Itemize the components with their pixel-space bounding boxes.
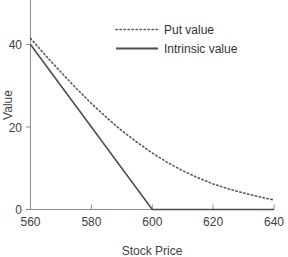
series-line-intrinsic-value (31, 45, 275, 210)
x-axis-title: Stock Price (122, 244, 183, 257)
x-tick-label-560: 560 (20, 215, 40, 229)
chart-plot-area: 40 20 0 560 580 600 620 640 Value Stock … (0, 0, 288, 257)
x-tick-label-640: 640 (264, 215, 284, 229)
y-tick-label-40: 40 (9, 38, 23, 52)
y-tick-label-20: 20 (9, 121, 23, 135)
legend: Put value Intrinsic value (116, 23, 238, 56)
y-axis-title: Value (1, 90, 15, 120)
chart-container: 40 20 0 560 580 600 620 640 Value Stock … (0, 0, 288, 257)
x-tick-label-600: 600 (142, 215, 162, 229)
legend-label-put-value: Put value (164, 23, 214, 37)
x-tick-label-580: 580 (81, 215, 101, 229)
x-tick-label-620: 620 (203, 215, 223, 229)
series-line-put-value (31, 38, 275, 200)
legend-label-intrinsic-value: Intrinsic value (164, 42, 238, 56)
